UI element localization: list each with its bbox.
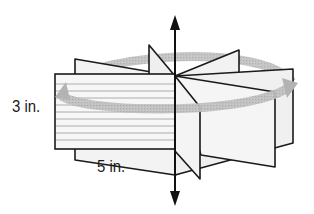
axis-arrow-down-icon <box>170 191 180 206</box>
axis-arrow-up-icon <box>170 15 180 30</box>
rotation-diagram <box>0 0 314 214</box>
height-label: 3 in. <box>12 97 40 117</box>
width-label: 5 in. <box>97 157 125 177</box>
